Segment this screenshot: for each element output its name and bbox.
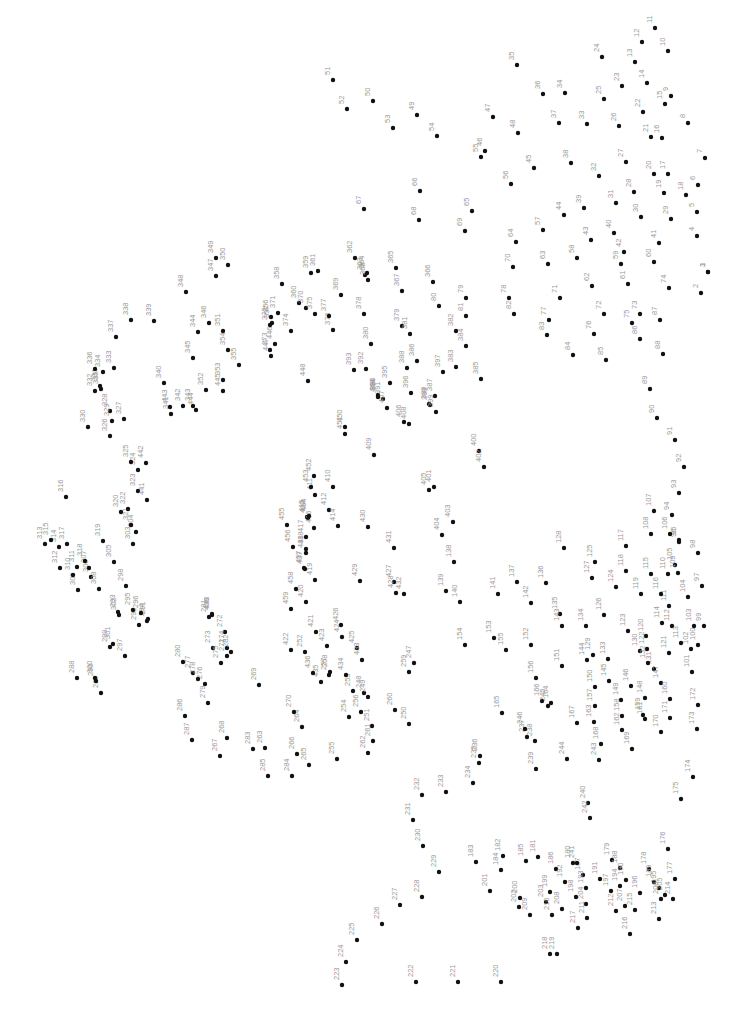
puzzle-dot: 338 xyxy=(121,302,133,322)
dot-number-label: 26 xyxy=(609,113,618,121)
puzzle-dot: 233 xyxy=(436,774,448,794)
dot-number-label: 150 xyxy=(585,669,594,682)
dot-marker xyxy=(194,408,198,412)
puzzle-dot: 48 xyxy=(508,120,520,136)
dot-number-label: 193 xyxy=(576,870,585,883)
puzzle-dot: 378 xyxy=(354,296,366,316)
dot-number-label: 121 xyxy=(659,635,668,648)
dot-number-label: 301 xyxy=(103,626,112,639)
dot-marker xyxy=(464,344,468,348)
dot-marker xyxy=(528,913,532,917)
dot-marker xyxy=(699,291,703,295)
dot-marker xyxy=(219,661,223,665)
dot-number-label: 459 xyxy=(281,591,290,604)
dot-number-label: 425 xyxy=(347,630,356,643)
dot-number-label: 409 xyxy=(364,437,373,450)
dot-number-label: 162 xyxy=(612,712,621,725)
puzzle-dot: 87 xyxy=(650,307,662,323)
puzzle-dot: 28 xyxy=(624,179,636,195)
dot-number-label: 34 xyxy=(555,80,564,88)
puzzle-dot: 2 xyxy=(691,284,703,295)
dot-marker xyxy=(331,328,335,332)
dot-number-label: 284 xyxy=(282,758,291,771)
dot-marker xyxy=(414,980,418,984)
dot-marker xyxy=(266,774,270,778)
puzzle-dot: 24 xyxy=(592,44,604,60)
dot-number-label: 88 xyxy=(653,341,662,349)
dot-number-label: 22 xyxy=(633,99,642,107)
dot-number-label: 445 xyxy=(213,373,222,386)
dot-marker xyxy=(639,592,643,596)
dot-marker xyxy=(630,321,634,325)
puzzle-dot: 65 xyxy=(462,198,474,214)
puzzle-dot: 75 xyxy=(622,310,634,326)
dot-number-label: 440 xyxy=(202,596,211,609)
dot-number-label: 221 xyxy=(448,964,457,977)
dot-number-label: 59 xyxy=(611,251,620,259)
puzzle-dot: 374 xyxy=(281,313,293,333)
puzzle-dot: 260 xyxy=(385,692,397,712)
dot-marker xyxy=(501,854,505,858)
dot-marker xyxy=(137,623,141,627)
dot-number-label: 380 xyxy=(361,326,370,339)
dot-number-label: 365 xyxy=(386,250,395,263)
dot-marker xyxy=(210,612,214,616)
dot-number-label: 362 xyxy=(345,240,354,253)
dot-marker xyxy=(364,367,368,371)
dot-marker xyxy=(76,588,80,592)
puzzle-dot: 142 xyxy=(521,585,533,605)
dot-marker xyxy=(560,624,564,628)
puzzle-dot: 330 xyxy=(78,409,90,429)
puzzle-dot: 143 xyxy=(552,608,564,628)
dot-marker xyxy=(340,635,344,639)
puzzle-dot: 73 xyxy=(630,301,642,317)
dot-marker xyxy=(273,342,277,346)
puzzle-dot: 381 xyxy=(400,316,412,336)
dot-marker xyxy=(696,643,700,647)
dot-marker xyxy=(602,613,606,617)
puzzle-dot: 115 xyxy=(641,557,653,576)
dot-number-label: 58 xyxy=(567,245,576,253)
dot-number-label: 153 xyxy=(484,620,493,633)
dot-marker xyxy=(648,387,652,391)
dot-number-label: 405 xyxy=(419,472,428,485)
dot-number-label: 165 xyxy=(492,695,501,708)
dot-number-label: 158 xyxy=(612,698,621,711)
puzzle-dot: 201 xyxy=(480,873,492,893)
dot-marker xyxy=(111,642,115,646)
puzzle-dot: 173 xyxy=(687,711,699,731)
dot-marker xyxy=(643,696,647,700)
dot-marker xyxy=(626,629,630,633)
puzzle-dot: 375 xyxy=(305,296,317,316)
puzzle-dot: 49 xyxy=(407,102,419,118)
dot-marker xyxy=(585,122,589,126)
dot-marker xyxy=(372,453,376,457)
dot-marker xyxy=(488,889,492,893)
puzzle-dot: 10 xyxy=(658,38,670,54)
dot-marker xyxy=(49,538,53,542)
dot-number-label: 152 xyxy=(521,627,530,640)
dot-number-label: 202 xyxy=(509,889,518,902)
dot-number-label: 251 xyxy=(362,708,371,721)
puzzle-dot: 79 xyxy=(456,285,468,301)
dot-marker xyxy=(344,960,348,964)
dot-number-label: 136 xyxy=(536,565,545,578)
dot-number-label: 232 xyxy=(412,777,421,790)
puzzle-dot: 303 xyxy=(123,526,135,546)
puzzle-dot: 36 xyxy=(533,81,545,97)
puzzle-dot: 423 xyxy=(317,628,329,648)
dot-marker xyxy=(65,542,69,546)
dot-marker xyxy=(590,576,594,580)
dot-number-label: 61 xyxy=(618,271,627,279)
dot-number-label: 254 xyxy=(339,699,348,712)
dot-number-label: 438 xyxy=(296,535,305,548)
dot-number-label: 76 xyxy=(584,321,593,329)
dot-number-label: 123 xyxy=(618,613,627,626)
puzzle-dot: 104 xyxy=(678,579,690,599)
puzzle-dot: 456 xyxy=(283,529,295,549)
dot-number-label: 246 xyxy=(515,711,524,724)
puzzle-dot: 348 xyxy=(176,274,188,294)
puzzle-dot: 98 xyxy=(688,540,700,556)
dot-number-label: 272 xyxy=(215,614,224,627)
puzzle-dot: 369 xyxy=(331,277,343,297)
